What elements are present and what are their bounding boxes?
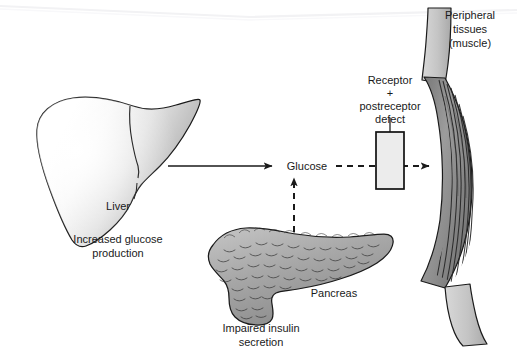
liver-label: Liver — [106, 200, 130, 212]
muscle-label-line3: (muscle) — [449, 37, 491, 49]
liver-highlight — [37, 97, 200, 247]
muscle-lower-tendon — [445, 284, 487, 346]
muscle-label-line2: tissues — [453, 23, 488, 35]
pancreas-body — [208, 228, 393, 325]
liver-caption-line2: production — [92, 247, 143, 259]
diagram-svg: Liver Increased glucose production Gluco… — [0, 0, 517, 352]
liver-illustration — [37, 97, 200, 247]
liver-caption-line1: Increased glucose — [73, 233, 162, 245]
pancreas-caption-line2: secretion — [239, 336, 284, 348]
pancreas-caption-line1: Impaired insulin — [222, 322, 299, 334]
pancreas-label: Pancreas — [311, 287, 358, 299]
muscle-belly — [421, 77, 472, 288]
diagram-canvas: Liver Increased glucose production Gluco… — [0, 0, 517, 352]
receptor-box-rect[interactable] — [376, 132, 404, 189]
receptor-label-line3: postreceptor — [359, 100, 420, 112]
receptor-label-line2: + — [387, 87, 393, 99]
receptor-label-line1: Receptor — [368, 74, 413, 86]
receptor-defect-box[interactable] — [376, 118, 404, 189]
pancreas-illustration — [208, 228, 393, 325]
muscle-illustration — [421, 8, 487, 346]
receptor-label-line4: defect — [375, 113, 405, 125]
muscle-label-line1: Peripheral — [445, 9, 495, 21]
glucose-label: Glucose — [287, 160, 327, 172]
